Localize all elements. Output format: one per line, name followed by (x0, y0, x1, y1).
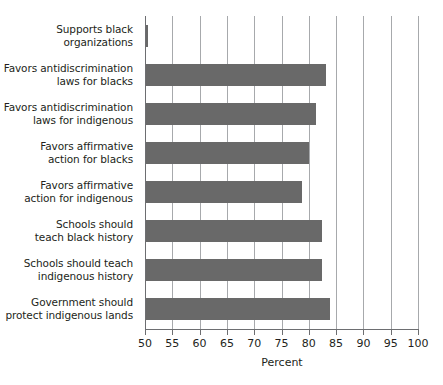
x-tick-label: 100 (398, 337, 438, 350)
category-label: Favors affirmativeaction for indigenous (0, 179, 133, 205)
category-label-line: Government should (0, 296, 133, 309)
category-label-line: laws for indigenous (0, 114, 133, 127)
category-label-line: Schools should teach (0, 257, 133, 270)
category-label: Favors affirmativeaction for blacks (0, 140, 133, 166)
x-tick (172, 330, 173, 335)
x-tick (254, 330, 255, 335)
gridline-95 (391, 16, 392, 329)
category-label-line: teach black history (0, 231, 133, 244)
x-tick (227, 330, 228, 335)
category-label: Supports blackorganizations (0, 23, 133, 49)
y-axis-line (145, 16, 146, 329)
category-label: Schools should teachindigenous history (0, 257, 133, 283)
category-label: Schools shouldteach black history (0, 218, 133, 244)
category-label-column: Supports blackorganizationsFavors antidi… (0, 16, 139, 329)
x-axis-title: Percent (145, 356, 419, 369)
category-label-line: Favors affirmative (0, 179, 133, 192)
bar (145, 259, 322, 281)
category-label-line: Favors affirmative (0, 140, 133, 153)
category-label: Government shouldprotect indigenous land… (0, 296, 133, 322)
gridline-100 (418, 16, 419, 329)
bar-chart: Supports blackorganizationsFavors antidi… (0, 0, 443, 385)
x-tick (145, 330, 146, 335)
category-label: Favors antidiscriminationlaws for indige… (0, 101, 133, 127)
x-tick (418, 330, 419, 335)
category-label: Favors antidiscriminationlaws for blacks (0, 62, 133, 88)
category-label-line: Favors antidiscrimination (0, 62, 133, 75)
x-tick (363, 330, 364, 335)
bar (145, 64, 326, 86)
category-label-line: indigenous history (0, 270, 133, 283)
category-label-line: organizations (0, 36, 133, 49)
x-tick (309, 330, 310, 335)
plot-area (145, 16, 418, 329)
bar (145, 103, 316, 125)
bar (145, 142, 309, 164)
category-label-line: action for blacks (0, 153, 133, 166)
category-label-line: Supports black (0, 23, 133, 36)
x-tick (391, 330, 392, 335)
bar (145, 181, 302, 203)
gridline-90 (363, 16, 364, 329)
category-label-line: action for indigenous (0, 192, 133, 205)
category-label-line: Favors antidiscrimination (0, 101, 133, 114)
x-tick (282, 330, 283, 335)
x-tick (200, 330, 201, 335)
gridline-85 (336, 16, 337, 329)
x-tick (336, 330, 337, 335)
category-label-line: protect indigenous lands (0, 309, 133, 322)
bar (145, 298, 330, 320)
category-label-line: Schools should (0, 218, 133, 231)
category-label-line: laws for blacks (0, 75, 133, 88)
bar (145, 220, 322, 242)
